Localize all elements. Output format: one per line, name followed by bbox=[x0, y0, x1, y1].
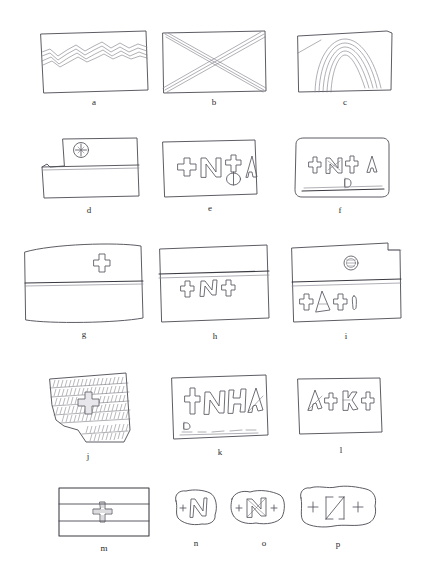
figure-i-caption: i bbox=[326, 332, 366, 341]
figure-f-caption: f bbox=[320, 206, 360, 215]
inscription-o bbox=[236, 498, 277, 517]
figure-c: c bbox=[295, 28, 395, 96]
figure-g-drawing bbox=[22, 238, 146, 326]
figure-g-caption: g bbox=[64, 330, 104, 339]
figure-k-caption: k bbox=[200, 448, 240, 457]
figure-b-drawing bbox=[160, 28, 268, 96]
figure-i-drawing bbox=[288, 238, 404, 326]
inscription-p bbox=[308, 497, 363, 519]
figure-o-drawing bbox=[228, 487, 288, 535]
inscription-i bbox=[300, 291, 356, 312]
figure-c-caption: c bbox=[325, 98, 365, 107]
figure-d: d bbox=[37, 134, 142, 202]
figure-h-drawing bbox=[155, 240, 273, 326]
circular-stamp-i bbox=[344, 256, 358, 270]
figure-a-caption: a bbox=[74, 98, 114, 107]
figure-d-caption: d bbox=[69, 206, 109, 215]
inscription-n bbox=[180, 498, 207, 517]
inscription-f bbox=[309, 156, 377, 188]
figure-p-caption: p bbox=[318, 540, 358, 549]
figure-l: l bbox=[294, 374, 386, 442]
figure-e: e bbox=[160, 136, 260, 200]
figure-j-caption: j bbox=[68, 452, 108, 461]
inscription-k bbox=[184, 388, 263, 430]
figure-o-caption: o bbox=[244, 539, 284, 548]
inscription-e bbox=[178, 155, 257, 185]
figure-plate: a b c bbox=[0, 0, 421, 573]
figure-a: a bbox=[38, 28, 150, 96]
figure-o: o bbox=[228, 487, 288, 535]
figure-p-drawing bbox=[296, 484, 380, 536]
figure-f: f bbox=[288, 134, 393, 202]
figure-e-caption: e bbox=[190, 204, 230, 213]
circled-cross-icon bbox=[74, 143, 89, 158]
figure-k-drawing bbox=[168, 372, 272, 444]
figure-m: m bbox=[56, 485, 152, 541]
figure-h: h bbox=[155, 240, 273, 326]
figure-m-caption: m bbox=[84, 544, 124, 553]
figure-j: j bbox=[38, 370, 136, 448]
figure-e-drawing bbox=[160, 136, 260, 200]
figure-c-drawing bbox=[295, 28, 395, 96]
figure-j-drawing bbox=[38, 370, 136, 448]
figure-n-drawing bbox=[170, 487, 222, 535]
inscription-h bbox=[181, 280, 235, 297]
figure-p: p bbox=[296, 484, 380, 536]
figure-g: g bbox=[22, 238, 146, 326]
figure-i: i bbox=[288, 238, 404, 326]
figure-f-drawing bbox=[288, 134, 393, 202]
figure-b: b bbox=[160, 28, 268, 96]
figure-n: n bbox=[170, 487, 222, 535]
figure-d-drawing bbox=[37, 134, 142, 202]
figure-a-drawing bbox=[38, 28, 150, 96]
figure-n-caption: n bbox=[176, 539, 216, 548]
figure-h-caption: h bbox=[195, 332, 235, 341]
figure-k: k bbox=[168, 372, 272, 444]
figure-m-drawing bbox=[56, 485, 152, 541]
cross-glyph-g bbox=[94, 254, 110, 272]
figure-l-drawing bbox=[294, 374, 386, 442]
figure-l-caption: l bbox=[321, 446, 361, 455]
inscription-l bbox=[308, 390, 374, 410]
figure-b-caption: b bbox=[194, 98, 234, 107]
hatched-cross-glyph-m bbox=[93, 502, 112, 522]
